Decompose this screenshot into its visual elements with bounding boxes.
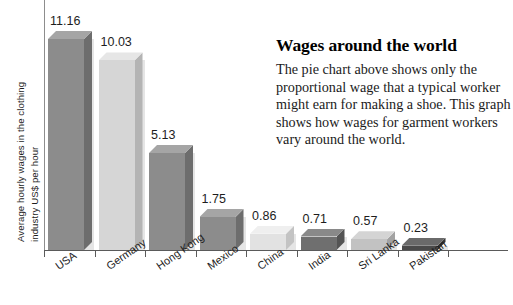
- side-text-body: The pie chart above shows only the propo…: [276, 61, 512, 149]
- bar-value-label: 10.03: [101, 35, 132, 49]
- bar-side-face: [84, 31, 92, 250]
- bar-usa: [48, 31, 92, 250]
- bar-value-label: 0.71: [303, 212, 327, 226]
- bar-value-label: 0.86: [252, 209, 276, 223]
- bar-front-face: [149, 153, 185, 250]
- chart-canvas: Average hourly wages in the clothing ind…: [0, 0, 513, 305]
- bar-germany: [99, 52, 143, 250]
- side-text-title: Wages around the world: [276, 36, 512, 55]
- x-axis-tick: [145, 251, 146, 257]
- bar-mexico: [200, 209, 244, 250]
- x-axis-tick: [398, 251, 399, 257]
- x-axis-tick: [297, 251, 298, 257]
- bar-side-face: [135, 52, 143, 250]
- x-axis-tick: [95, 251, 96, 257]
- side-text-block: Wages around the world The pie chart abo…: [276, 36, 512, 149]
- bar-value-label: 11.16: [50, 14, 80, 28]
- x-axis-tick: [347, 251, 348, 257]
- bar-value-label: 0.23: [404, 221, 428, 235]
- bar-india: [301, 229, 345, 250]
- bar-front-face: [48, 39, 84, 250]
- bar-value-label: 5.13: [151, 128, 175, 142]
- bar-hong-kong: [149, 145, 193, 250]
- category-label-usa: USA: [53, 249, 78, 272]
- bar-front-face: [99, 60, 135, 250]
- x-axis-tick: [44, 251, 45, 257]
- bar-front-face: [301, 237, 337, 250]
- x-axis-tick: [246, 251, 247, 257]
- x-axis-tick: [448, 251, 449, 257]
- bar-value-label: 0.57: [353, 214, 377, 228]
- bar-value-label: 1.75: [202, 192, 226, 206]
- bar-china: [250, 226, 294, 250]
- x-axis-tick: [196, 251, 197, 257]
- category-label-india: India: [306, 248, 332, 272]
